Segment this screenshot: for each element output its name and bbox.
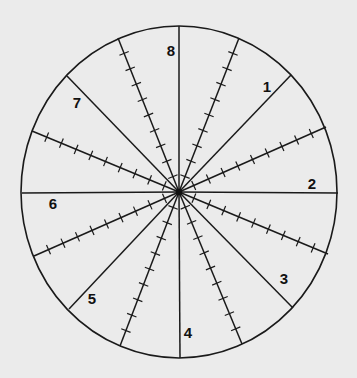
line-lower-left bbox=[69, 192, 179, 309]
line-upper-right bbox=[179, 75, 291, 192]
line-bottom bbox=[179, 192, 180, 358]
sector-label-6: 6 bbox=[49, 195, 57, 212]
wheel-svg: 12345678 bbox=[0, 0, 357, 378]
ticked-spoke-ssw bbox=[120, 192, 179, 346]
line-left bbox=[22, 192, 179, 193]
ticked-spoke-nnw bbox=[118, 38, 179, 192]
line-lower-right bbox=[179, 192, 293, 308]
center-hub bbox=[176, 189, 182, 195]
ticked-spoke-wnw bbox=[32, 131, 179, 192]
line-upper-left bbox=[67, 76, 179, 192]
sector-label-2: 2 bbox=[308, 175, 316, 192]
sector-label-5: 5 bbox=[88, 290, 96, 307]
sector-label-1: 1 bbox=[263, 78, 271, 95]
sector-label-7: 7 bbox=[73, 94, 81, 111]
sector-label-4: 4 bbox=[184, 324, 193, 341]
sector-label-8: 8 bbox=[167, 42, 175, 59]
line-right bbox=[179, 192, 338, 193]
sector-label-3: 3 bbox=[280, 270, 288, 287]
dial-diagram: 12345678 bbox=[0, 0, 357, 378]
